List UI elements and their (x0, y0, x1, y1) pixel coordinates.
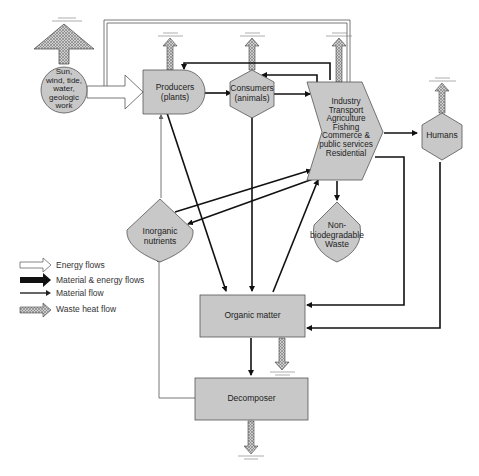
industry-label: Industry Transport Agriculture Fishing C… (316, 98, 376, 158)
waste-label: Non- biodegradable Waste (307, 221, 367, 250)
inorganic-line-2: nutrients (132, 237, 188, 247)
legend-symbols (20, 258, 51, 317)
legend-material-energy-label: Material & energy flows (56, 275, 144, 285)
legend-energy-label: Energy flows (56, 260, 105, 270)
top-double-line (104, 20, 350, 86)
waste-line-3: Waste (307, 240, 367, 250)
industry-line-7: Residential (316, 150, 376, 159)
legend-waste-heat-label: Waste heat flow (56, 304, 116, 314)
legend-material-label: Material flow (56, 288, 104, 298)
humans-label: Humans (420, 131, 464, 141)
producers-label: Producers (plants) (147, 83, 203, 102)
decomposer-label: Decomposer (195, 394, 308, 404)
sun-label: Sun, wind, tide, water, geologic work (42, 68, 86, 111)
consumers-label: Consumers (animals) (226, 84, 278, 103)
organic-label: Organic matter (200, 311, 305, 321)
consumers-line-2: (animals) (226, 94, 278, 104)
inorganic-label: Inorganic nutrients (132, 227, 188, 246)
energy-flow-arrow (87, 75, 143, 109)
producers-line-2: (plants) (147, 93, 203, 103)
sun-line-5: work (42, 102, 86, 111)
